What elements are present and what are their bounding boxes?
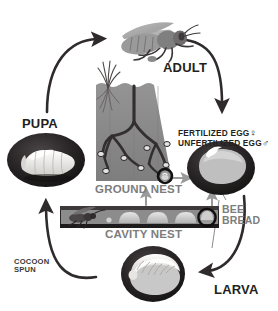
adult-bee-icon	[120, 22, 200, 62]
diagram-canvas: ADULT PUPA LARVA GROUND NEST CAVITY NEST…	[0, 0, 278, 311]
unfertilized-egg-annotation: UNFERTILIZED EGG♂	[178, 129, 269, 148]
arrow-pupa-to-adult	[47, 39, 97, 112]
pupa-icon	[7, 133, 85, 187]
ground-nest-icon	[96, 61, 172, 183]
bee-bread-label: BEE BREAD	[222, 204, 260, 227]
adult-label: ADULT	[163, 61, 207, 75]
ground-nest-label: GROUND NEST	[95, 183, 182, 195]
ground-nest-highlight-cell	[158, 169, 172, 183]
egg-cell-icon	[187, 141, 255, 195]
male-symbol-icon: ♂	[262, 137, 269, 148]
larva-label: LARVA	[214, 283, 259, 297]
larva-icon	[121, 246, 185, 302]
cavity-nest-label: CAVITY NEST	[105, 228, 182, 240]
pupa-label: PUPA	[22, 117, 58, 131]
cavity-nest-icon	[60, 206, 219, 228]
unfertilized-egg-text: UNFERTILIZED EGG	[178, 138, 262, 148]
cocoon-spun-label: COCOON SPUN	[14, 258, 49, 274]
